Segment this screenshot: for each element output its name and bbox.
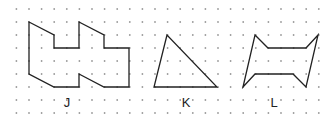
shape-k — [154, 35, 217, 87]
label-k: K — [182, 96, 191, 109]
label-j: J — [64, 96, 71, 109]
dot-grid-diagram — [0, 0, 334, 121]
shape-j — [29, 22, 129, 87]
label-l: L — [270, 96, 277, 109]
